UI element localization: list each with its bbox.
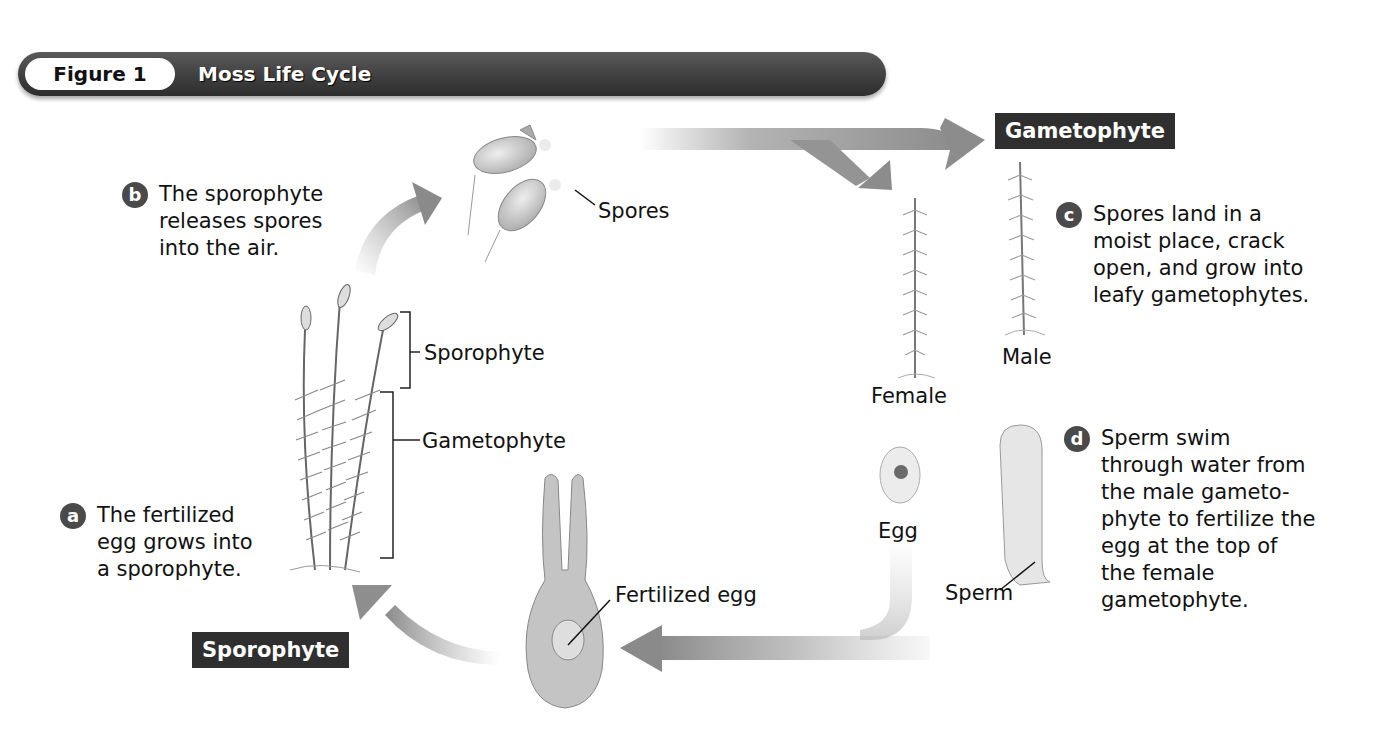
label-fertilized-egg: Fertilized egg: [615, 582, 757, 608]
label-sporophyte-part: Sporophyte: [424, 340, 545, 366]
bracket-sporophyte: [400, 312, 420, 388]
arrow-sporophyte-to-spores: [355, 182, 442, 275]
stage-label-gametophyte: Gametophyte: [995, 113, 1175, 149]
antheridium-drawing: [1000, 425, 1050, 590]
archegonium-drawing: [526, 474, 610, 708]
life-cycle-illustration: [0, 0, 1386, 736]
female-gametophyte-drawing: [898, 198, 935, 378]
label-male: Male: [1002, 344, 1052, 370]
male-gametophyte-drawing: [1005, 162, 1045, 335]
label-spores: Spores: [598, 198, 670, 224]
step-badge-a: a: [60, 503, 86, 529]
stage-label-sporophyte: Sporophyte: [192, 632, 349, 668]
moss-plant-drawing: [290, 283, 400, 572]
label-egg: Egg: [878, 518, 918, 544]
arrow-fertilized-egg-to-sporophyte: [352, 585, 500, 665]
arrow-spores-to-gametophyte: [640, 118, 985, 190]
bracket-gametophyte: [380, 392, 420, 558]
step-badge-d: d: [1064, 426, 1090, 452]
step-a-text: The fertilized egg grows into a sporophy…: [97, 502, 253, 583]
label-gametophyte-part: Gametophyte: [422, 428, 566, 454]
step-d-text: Sperm swim through water from the male g…: [1101, 425, 1315, 614]
label-sperm: Sperm: [945, 580, 1013, 606]
spore-capsules-drawing: [468, 125, 595, 262]
step-badge-c: c: [1056, 202, 1082, 228]
step-b-text: The sporophyte releases spores into the …: [159, 181, 323, 262]
egg-drawing: [880, 447, 920, 503]
step-c-text: Spores land in a moist place, crack open…: [1093, 201, 1309, 309]
step-badge-b: b: [122, 182, 148, 208]
label-female: Female: [871, 383, 947, 409]
